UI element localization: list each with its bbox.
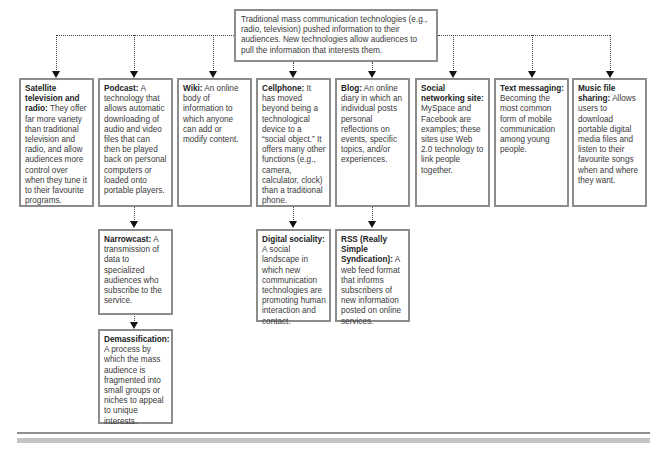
node-desc: An online body of information to which a… [183, 84, 239, 144]
node-social-networking: Social networking site: MySpace and Face… [415, 78, 490, 207]
node-desc: A social landscape in which new communic… [262, 245, 326, 325]
node-music-file-sharing: Music file sharing: Allows users to down… [572, 78, 647, 207]
arrow-down-icon [368, 221, 376, 228]
root-node-mass-communication: Traditional mass communication technolog… [234, 9, 438, 62]
connector-v [134, 207, 135, 222]
arrow-down-icon [130, 71, 138, 78]
divider-band [17, 438, 650, 443]
node-term: Narrowcast: [104, 235, 151, 244]
node-rss: RSS (Really Simple Syndication): A web f… [335, 229, 410, 322]
node-term: Wiki: [183, 84, 203, 93]
arrow-down-icon [528, 71, 536, 78]
arrow-down-icon [606, 71, 614, 78]
connector-v [56, 35, 57, 72]
node-desc: It has moved beyond being a technologica… [262, 84, 326, 205]
arrow-down-icon [289, 71, 297, 78]
node-desc: Becoming the most common form of mobile … [500, 94, 555, 154]
connector-v [293, 207, 294, 222]
connector-v [372, 207, 373, 222]
node-podcast: Podcast: A technology that allows automa… [98, 78, 173, 207]
node-desc: An online diary in which an individual p… [341, 84, 402, 164]
arrow-down-icon [130, 322, 138, 329]
node-term: Cellphone: [262, 84, 304, 93]
node-desc: A process by which the mass audience is … [104, 345, 164, 425]
node-term: Text messaging: [500, 84, 564, 93]
node-narrowcast: Narrowcast: A transmission of data to sp… [98, 229, 173, 315]
arrow-down-icon [449, 71, 457, 78]
arrow-down-icon [368, 71, 376, 78]
node-digital-sociality: Digital sociality: A social landscape in… [256, 229, 331, 322]
arrow-down-icon [130, 221, 138, 228]
arrow-down-icon [289, 221, 297, 228]
connector-right [438, 35, 610, 36]
node-blog: Blog: An online diary in which an indivi… [335, 78, 410, 207]
node-desc: A technology that allows automatic downl… [104, 84, 166, 195]
divider-rule [17, 432, 650, 434]
node-term: Social networking site: [421, 84, 484, 103]
connector-v [610, 35, 611, 72]
node-desc: A web feed format that informs subscribe… [341, 255, 401, 325]
arrow-down-icon [52, 71, 60, 78]
node-text-messaging: Text messaging: Becoming the most common… [494, 78, 569, 207]
node-satellite: Satellite television and radio: They off… [19, 78, 94, 207]
arrow-down-icon [209, 71, 217, 78]
node-term: Podcast: [104, 84, 139, 93]
connector-v [453, 35, 454, 72]
node-cellphone: Cellphone: It has moved beyond being a t… [256, 78, 331, 207]
connector-v [532, 35, 533, 72]
node-term: Digital sociality: [262, 235, 325, 244]
root-node-text: Traditional mass communication technolog… [241, 15, 427, 55]
node-desc: Allows users to download portable digita… [578, 94, 638, 185]
node-desc: They offer far more variety than traditi… [25, 104, 87, 205]
node-desc: MySpace and Facebook are examples; these… [421, 104, 483, 174]
connector-v [213, 35, 214, 72]
connector-v [134, 35, 135, 72]
node-desc: A transmission of data to specialized au… [104, 235, 162, 305]
node-wiki: Wiki: An online body of information to w… [177, 78, 252, 207]
node-demassification: Demassification: A process by which the … [98, 329, 173, 424]
node-term: Demassification: [104, 335, 170, 344]
connector-left [56, 35, 234, 36]
node-term: Blog: [341, 84, 362, 93]
node-term: RSS (Really Simple Syndication): [341, 235, 393, 264]
